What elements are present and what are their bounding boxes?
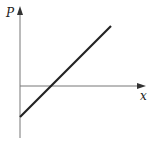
graph-svg: P x <box>0 0 158 149</box>
y-axis-label: P <box>5 6 15 20</box>
y-axis-arrow-icon <box>17 6 23 15</box>
diagram-canvas: P x <box>0 0 158 149</box>
x-axis-label: x <box>140 89 147 103</box>
data-line <box>20 26 111 117</box>
